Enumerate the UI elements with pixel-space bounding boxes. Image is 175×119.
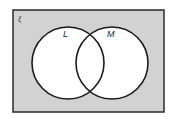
universal-set-label: ξ (18, 15, 22, 24)
set-m-label: M (107, 29, 115, 39)
venn-diagram: ξ L M (0, 0, 175, 119)
set-l-label: L (63, 29, 68, 39)
